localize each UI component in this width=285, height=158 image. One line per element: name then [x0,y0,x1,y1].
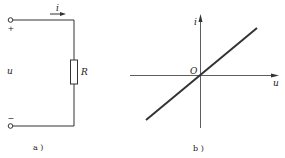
origin-label: O [190,66,198,76]
caption-b: b ) [193,144,204,153]
diagram-canvas: i + − u R a ) i u O b ) [0,0,285,158]
caption-a: a ) [33,143,43,152]
voltage-label: u [7,66,13,76]
top-terminal-icon [8,18,13,23]
y-axis-label: i [194,17,197,27]
current-arrow-icon [60,12,66,16]
circuit-diagram [8,14,77,128]
resistor-label: R [80,67,88,77]
resistor-icon [71,60,78,84]
current-label: i [56,3,59,13]
plus-sign: + [8,24,15,33]
minus-sign: − [8,114,15,123]
x-axis-arrow-icon [271,74,279,78]
x-axis-label: u [273,78,279,88]
y-axis-arrow-icon [199,14,203,22]
bottom-terminal-icon [8,124,13,129]
characteristic-line [146,28,257,120]
iu-graph [130,20,273,128]
